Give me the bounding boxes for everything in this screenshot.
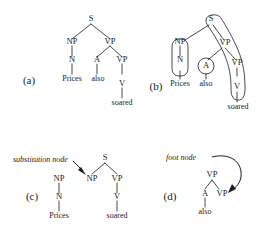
node-a-s: S	[89, 13, 94, 23]
leaf-a-also: also	[92, 74, 105, 83]
panel-label-a: (a)	[23, 74, 36, 87]
foot-node-arrow-head	[228, 184, 236, 193]
node-d-vp-foot: VP	[217, 188, 228, 198]
node-b-s: S	[209, 13, 214, 23]
panel-label-c: (c)	[26, 190, 39, 203]
node-b-n: N	[177, 54, 183, 64]
node-b-a: A	[203, 60, 210, 70]
leaf-b-soared: soared	[228, 102, 249, 111]
panel-b: S NP VP N A VP V Prices also soared (b)	[150, 13, 249, 111]
panel-a: S NP VP N A VP V Prices also soared (a)	[23, 13, 133, 107]
node-b-vp2: VP	[232, 57, 243, 67]
annotation-substitution-node: substitution node	[13, 155, 68, 164]
node-d-a: A	[202, 188, 209, 198]
panel-d: foot node VP A VP also (d)	[164, 153, 242, 216]
node-b-vp: VP	[220, 37, 231, 47]
node-b-np: NP	[175, 36, 186, 46]
annotation-foot-node: foot node	[166, 153, 196, 162]
edge-b-vp-a	[208, 48, 222, 60]
leaf-b-also: also	[200, 79, 213, 88]
node-a-vp: VP	[105, 36, 116, 46]
leaf-a-prices: Prices	[62, 74, 82, 83]
leaf-c-soared: soared	[107, 211, 128, 220]
node-c-right-v: V	[114, 191, 121, 201]
node-a-n: N	[69, 54, 75, 64]
leaf-c-prices: Prices	[49, 211, 69, 220]
node-c-right-vp: VP	[112, 173, 123, 183]
node-d-vp: VP	[207, 169, 218, 179]
node-a-np: NP	[67, 36, 78, 46]
node-c-right-np: NP	[87, 173, 98, 183]
panel-c: substitution node NP N Prices S NP VP V …	[13, 152, 127, 220]
node-c-left-np: NP	[54, 173, 65, 183]
node-a-a: A	[94, 54, 101, 64]
substitution-arrow-head	[78, 167, 86, 175]
node-a-vp2: VP	[117, 54, 128, 64]
panel-label-d: (d)	[164, 190, 177, 203]
edge-b-s-np	[185, 25, 209, 40]
node-c-left-n: N	[56, 191, 62, 201]
panel-label-b: (b)	[150, 80, 163, 93]
leaf-a-soared: soared	[112, 98, 133, 107]
node-a-v: V	[119, 78, 126, 88]
node-c-right-s: S	[103, 152, 108, 162]
leaf-d-also: also	[199, 207, 212, 216]
leaf-b-prices: Prices	[170, 79, 190, 88]
tag-grammar-figure: S NP VP N A VP V Prices also soared (a)	[0, 0, 261, 237]
node-b-v: V	[234, 81, 241, 91]
